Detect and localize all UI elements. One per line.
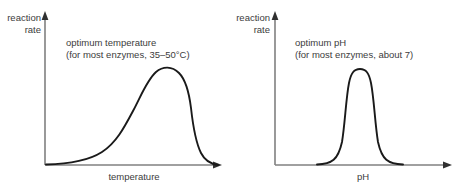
y-axis-arrowhead xyxy=(272,11,279,20)
x-axis-label-ph: pH xyxy=(274,171,452,183)
x-axis-label-temperature: temperature xyxy=(45,171,223,183)
y-axis-label-temperature: reaction rate xyxy=(0,12,41,36)
temperature-response-curve xyxy=(46,68,218,165)
y-axis-label-ph: reaction rate xyxy=(229,12,270,36)
ph-response-curve xyxy=(317,69,403,165)
chart-panel-ph: reaction rate optimum pH (for most enzym… xyxy=(229,0,458,196)
x-axis-arrowhead xyxy=(443,162,452,169)
enzyme-rate-figure: reaction rate optimum temperature (for m… xyxy=(0,0,458,196)
annotation-optimum-ph: optimum pH (for most enzymes, about 7) xyxy=(295,37,413,62)
chart-panel-temperature: reaction rate optimum temperature (for m… xyxy=(0,0,229,196)
annotation-optimum-temperature: optimum temperature (for most enzymes, 3… xyxy=(66,37,190,62)
y-axis-arrowhead xyxy=(42,11,49,20)
